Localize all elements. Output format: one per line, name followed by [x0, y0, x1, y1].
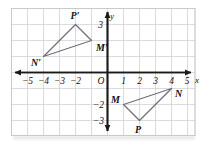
x-tick-2: 2 — [137, 76, 142, 86]
x-tick--2: −2 — [70, 76, 81, 86]
x-tick--3: −3 — [54, 76, 65, 86]
y-tick--3: −3 — [93, 116, 104, 126]
x-tick-1: 1 — [121, 76, 126, 86]
y-tick-3: 3 — [97, 20, 103, 30]
origin-label: O — [98, 76, 105, 86]
x-tick-3: 3 — [152, 76, 158, 86]
figure-root: −5 −4 −3 −2 1 2 3 4 5 3 −2 −3 O x y P′ M… — [0, 0, 206, 151]
vertex-label-M-prime: M′ — [95, 42, 108, 53]
vertex-label-N-prime: N′ — [30, 57, 41, 68]
x-tick-4: 4 — [169, 76, 174, 86]
y-tick--2: −2 — [93, 100, 104, 110]
vertex-label-P: P — [135, 124, 142, 135]
coordinate-plane: −5 −4 −3 −2 1 2 3 4 5 3 −2 −3 O x y P′ M… — [0, 0, 206, 151]
x-tick--5: −5 — [22, 76, 33, 86]
x-tick--4: −4 — [38, 76, 49, 86]
vertex-label-M: M — [110, 94, 121, 105]
vertex-label-N: N — [174, 88, 183, 99]
vertex-label-P-prime: P′ — [71, 10, 80, 21]
x-tick-5: 5 — [185, 76, 190, 86]
y-axis-label: y — [109, 11, 114, 21]
x-axis-label: x — [194, 75, 199, 85]
x-tick-labels: −5 −4 −3 −2 1 2 3 4 5 — [22, 76, 190, 86]
coordinate-plane-svg: −5 −4 −3 −2 1 2 3 4 5 3 −2 −3 O x y P′ M… — [0, 0, 206, 151]
